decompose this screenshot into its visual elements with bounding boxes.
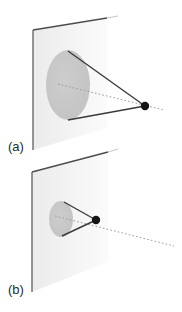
panel-a-label: (a) — [8, 139, 24, 154]
panel-b-label: (b) — [8, 282, 24, 297]
panel-a: (a) — [8, 16, 164, 154]
panel-b-point-source — [92, 216, 100, 224]
geometry-diagram: (a) (b) — [0, 0, 182, 312]
figure-container: (a) (b) — [0, 0, 182, 312]
panel-b-projected-disk — [49, 201, 73, 237]
panel-a-point-source — [141, 102, 149, 110]
panel-a-projected-disk — [46, 50, 90, 120]
panel-a-plane-top-edge-fade — [107, 16, 118, 18]
panel-b: (b) — [8, 149, 174, 297]
panel-b-plane-top-edge-fade — [108, 149, 118, 152]
